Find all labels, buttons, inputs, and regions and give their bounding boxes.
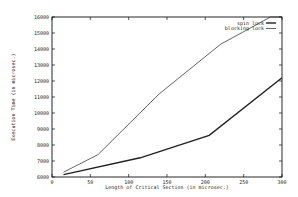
y-tick-label: 7000: [37, 158, 49, 164]
series-line-spin-lock: [64, 78, 283, 175]
x-axis-ticks: 050100150200250300: [50, 17, 286, 185]
y-tick-label: 12000: [34, 78, 49, 84]
y-tick-label: 9000: [37, 126, 49, 132]
y-tick-label: 6000: [37, 174, 49, 180]
legend-label: blocking lock: [225, 25, 264, 32]
x-tick-label: 300: [277, 179, 286, 185]
line-chart: 6000700080009000100001100012000130001400…: [0, 0, 298, 197]
plot-frame: [52, 17, 282, 177]
y-tick-label: 8000: [37, 142, 49, 148]
y-tick-label: 13000: [34, 62, 49, 68]
y-axis-label: Execution Time (in microsec.): [10, 53, 16, 140]
y-tick-label: 15000: [34, 30, 49, 36]
y-tick-label: 16000: [34, 14, 49, 20]
y-tick-label: 11000: [34, 94, 49, 100]
x-tick-label: 0: [50, 179, 53, 185]
y-tick-label: 10000: [34, 110, 49, 116]
y-axis-ticks: 6000700080009000100001100012000130001400…: [34, 14, 282, 180]
data-series: [64, 17, 283, 175]
x-tick-label: 250: [239, 179, 248, 185]
series-line-blocking-lock: [64, 17, 283, 172]
legend: spin lockblocking lock: [225, 20, 276, 33]
x-tick-label: 50: [87, 179, 93, 185]
x-axis-label: Length of Critical Section (in microsec.…: [105, 184, 228, 191]
y-tick-label: 14000: [34, 46, 49, 52]
